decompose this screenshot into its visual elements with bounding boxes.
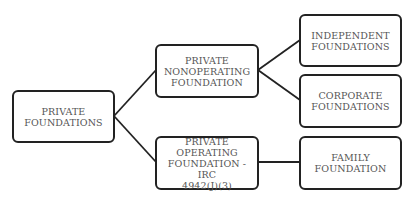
edge-nonoperating-to-corporate [258,70,300,100]
node-label: FAMILY FOUNDATION [315,152,387,174]
node-corporate-foundations: CORPORATE FOUNDATIONS [299,74,402,128]
node-label: INDEPENDENT FOUNDATIONS [311,30,390,52]
node-independent-foundations: INDEPENDENT FOUNDATIONS [299,14,402,67]
edge-nonoperating-to-independent [258,40,300,70]
node-private-operating-foundation: PRIVATE OPERATING FOUNDATION - IRC 4942(… [155,136,259,190]
node-label: PRIVATE OPERATING FOUNDATION - IRC 4942(… [160,136,254,191]
node-family-foundation: FAMILY FOUNDATION [299,136,402,190]
node-private-foundations: PRIVATE FOUNDATIONS [12,90,115,143]
edge-root-to-operating [114,116,156,162]
edge-root-to-nonoperating [114,70,156,116]
node-label: CORPORATE FOUNDATIONS [311,90,389,112]
node-label: PRIVATE NONOPERATING FOUNDATION [164,55,250,88]
node-label: PRIVATE FOUNDATIONS [24,106,102,128]
node-private-nonoperating-foundation: PRIVATE NONOPERATING FOUNDATION [155,44,259,98]
org-chart-diagram: PRIVATE FOUNDATIONS PRIVATE NONOPERATING… [0,0,414,200]
